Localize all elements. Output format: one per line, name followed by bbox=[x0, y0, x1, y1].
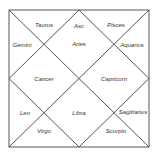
house-1-note: Asc bbox=[73, 23, 84, 29]
house-7-sign: Libra bbox=[72, 110, 86, 116]
astrology-chart: Asc Aries Taurus Gemini Cancer Leo Virgo… bbox=[0, 0, 159, 154]
house-9-sign: Sagittarius bbox=[119, 109, 147, 115]
house-3-sign: Gemini bbox=[12, 42, 32, 48]
house-11-sign: Aquarius bbox=[119, 42, 144, 48]
house-10-sign: Capricorn bbox=[101, 76, 128, 82]
house-1-sign: Aries bbox=[71, 41, 86, 47]
house-6-sign: Virgo bbox=[37, 128, 52, 134]
house-8-sign: Scorpio bbox=[106, 128, 127, 134]
house-5-sign: Leo bbox=[20, 110, 31, 116]
house-4-sign: Cancer bbox=[34, 76, 54, 82]
house-2-sign: Taurus bbox=[35, 22, 53, 28]
house-12-sign: Pisces bbox=[107, 22, 125, 28]
